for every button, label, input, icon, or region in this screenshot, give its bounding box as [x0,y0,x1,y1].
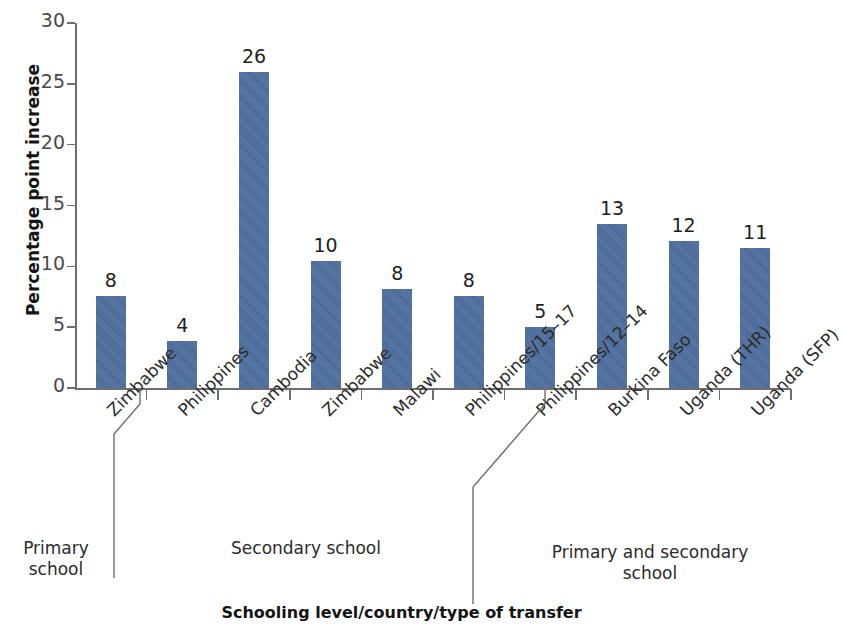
y-tick-label: 0 [21,376,65,395]
x-tick-mark [217,389,219,400]
group-label-both-line1: Primary and secondary [500,542,800,563]
x-axis-title: Schooling level/country/type of transfer [0,603,803,622]
bar-value-label: 8 [81,269,141,291]
y-tick-mark [67,205,75,207]
bar-value-label: 8 [367,262,427,284]
y-tick-mark [67,387,75,389]
bar-fill [239,72,269,388]
bar-value-label: 4 [152,314,212,336]
bar-value-label: 10 [296,234,356,256]
y-axis-line [75,23,77,389]
y-tick-label: 10 [21,254,65,273]
group-label-both-line2: school [500,563,800,584]
bar-fill [454,296,484,388]
plot-area: 051015202530 842610885131211 ZimbabwePhi… [75,18,791,393]
bar-fill [669,241,699,388]
group-label-primary-school: Primary school [0,538,112,581]
bar [96,296,126,388]
y-tick-label: 30 [21,11,65,30]
x-tick-mark [575,389,577,400]
bar-value-label: 26 [224,45,284,67]
bar-value-label: 13 [582,197,642,219]
bar [382,289,412,388]
y-tick-mark [67,22,75,24]
group-label-secondary-school: Secondary school [146,538,466,559]
bar-fill [382,289,412,388]
bar-fill [96,296,126,388]
bar [311,261,341,388]
bar-value-label: 11 [725,221,785,243]
y-tick-mark [67,326,75,328]
bar-fill [740,248,770,388]
y-tick-mark [67,144,75,146]
group-label-primary-and-secondary-school: Primary and secondary school [500,542,800,585]
bar-value-label: 8 [439,269,499,291]
group-label-secondary-line1: Secondary school [146,538,466,559]
bar-value-label: 12 [654,214,714,236]
bar [454,296,484,388]
y-tick-label: 15 [21,194,65,213]
bar [669,241,699,388]
y-tick-mark [67,266,75,268]
y-tick-mark [67,83,75,85]
y-tick-label: 25 [21,72,65,91]
y-tick-label: 5 [21,315,65,334]
y-tick-label: 20 [21,133,65,152]
group-label-primary-line2: school [0,559,112,580]
bar [239,72,269,388]
bar-fill [311,261,341,388]
bar [740,248,770,388]
group-label-primary-line1: Primary [0,538,112,559]
